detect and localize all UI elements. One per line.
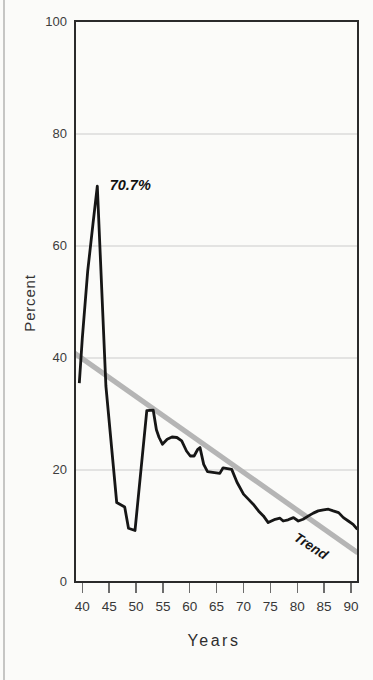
x-tick-mark-70 (243, 583, 244, 593)
y-axis-title: Percent (21, 274, 38, 331)
x-axis-title: Years (188, 632, 241, 650)
x-tick-mark-60 (189, 583, 190, 593)
x-tick-mark-50 (135, 583, 136, 593)
chart-canvas: Percent 70.7% Trend Years 02040608010040… (0, 0, 373, 680)
y-tick-label-100: 100 (27, 13, 67, 31)
y-tick-label-60: 60 (27, 237, 67, 255)
x-tick-mark-75 (270, 583, 271, 593)
y-tick-label-20: 20 (27, 461, 67, 479)
y-tick-label-80: 80 (27, 125, 67, 143)
plot-area-border (74, 20, 359, 583)
y-tick-label-40: 40 (27, 349, 67, 367)
x-tick-mark-80 (297, 583, 298, 593)
x-tick-mark-45 (108, 583, 109, 593)
x-tick-mark-90 (350, 583, 351, 593)
y-tick-label-0: 0 (27, 573, 67, 591)
page-edge-line (3, 0, 5, 680)
x-tick-mark-55 (162, 583, 163, 593)
peak-value-annotation: 70.7% (110, 177, 151, 193)
x-tick-mark-65 (216, 583, 217, 593)
x-tick-mark-40 (82, 583, 83, 593)
x-tick-label-90: 90 (335, 599, 367, 615)
x-tick-mark-85 (323, 583, 324, 593)
